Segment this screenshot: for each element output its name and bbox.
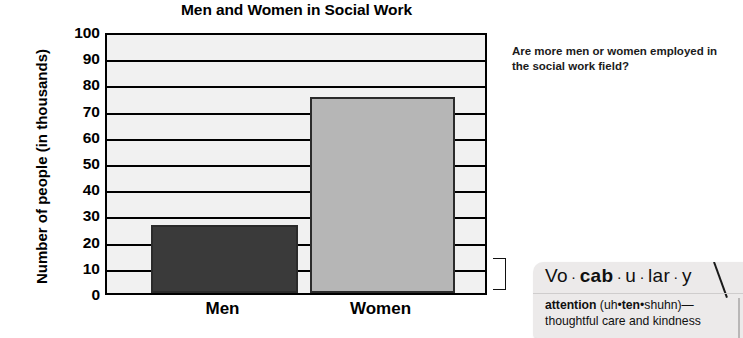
chart-title: Men and Women in Social Work: [105, 1, 488, 19]
y-tick-label: 60: [54, 130, 100, 146]
x-axis-label-women: Women: [308, 299, 453, 319]
vocabulary-card-edge: [738, 298, 740, 338]
vocabulary-word: attention: [545, 298, 596, 312]
vocabulary-definition: thoughtful care and kindness: [545, 314, 701, 328]
y-tick-label: 20: [54, 235, 100, 251]
gridline: [107, 86, 485, 88]
x-axis-label-men: Men: [149, 299, 296, 319]
bar-women: [310, 97, 455, 294]
gridline: [107, 60, 485, 62]
y-tick-label: 90: [54, 51, 100, 67]
vocabulary-card: Vo · cab · u · lar · y attention (uh•ten…: [533, 262, 743, 338]
bar-men: [151, 225, 298, 293]
folded-corner-icon: [711, 264, 737, 296]
vocabulary-heading: Vo · cab · u · lar · y: [545, 265, 692, 287]
bar-chart-figure: Men and Women in Social Work Number of p…: [0, 0, 500, 338]
question-prompt: Are more men or women employed in the so…: [512, 44, 737, 74]
y-tick-label: 80: [54, 78, 100, 94]
vocabulary-entry: attention (uh•ten•shuhn)— thoughtful car…: [545, 297, 737, 330]
vocabulary-divider: [533, 293, 743, 294]
vocabulary-pronunciation-stress: ten: [622, 298, 640, 312]
y-tick-label: 50: [54, 156, 100, 172]
y-tick-label: 70: [54, 104, 100, 120]
y-axis-tick-labels: 0102030405060708090100: [50, 33, 100, 295]
y-tick-label: 30: [54, 209, 100, 225]
y-tick-label: 0: [54, 287, 100, 303]
y-axis-title: Number of people (in thousands): [33, 42, 50, 292]
y-tick-label: 10: [54, 261, 100, 277]
vocabulary-pronunciation-close: •shuhn)—: [640, 298, 694, 312]
vocabulary-pronunciation-open: (uh•: [596, 298, 621, 312]
y-tick-label: 100: [54, 25, 100, 41]
page-edge-box-fragment: [493, 258, 506, 290]
y-tick-label: 40: [54, 182, 100, 198]
plot-area: [105, 33, 487, 295]
